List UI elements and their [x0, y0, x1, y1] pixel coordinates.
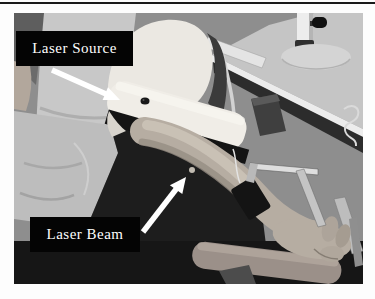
stand-base-plate — [281, 44, 351, 70]
figure-photo: LISCA — [14, 13, 363, 284]
stand-knob — [312, 17, 327, 28]
laser-spot — [189, 167, 195, 173]
curled-fingers — [320, 246, 344, 262]
laser-source-label: Laser Source — [16, 31, 133, 66]
laser-beam-label: Laser Beam — [30, 217, 140, 252]
laser-aperture — [141, 98, 150, 105]
page-top-rule — [0, 2, 375, 4]
